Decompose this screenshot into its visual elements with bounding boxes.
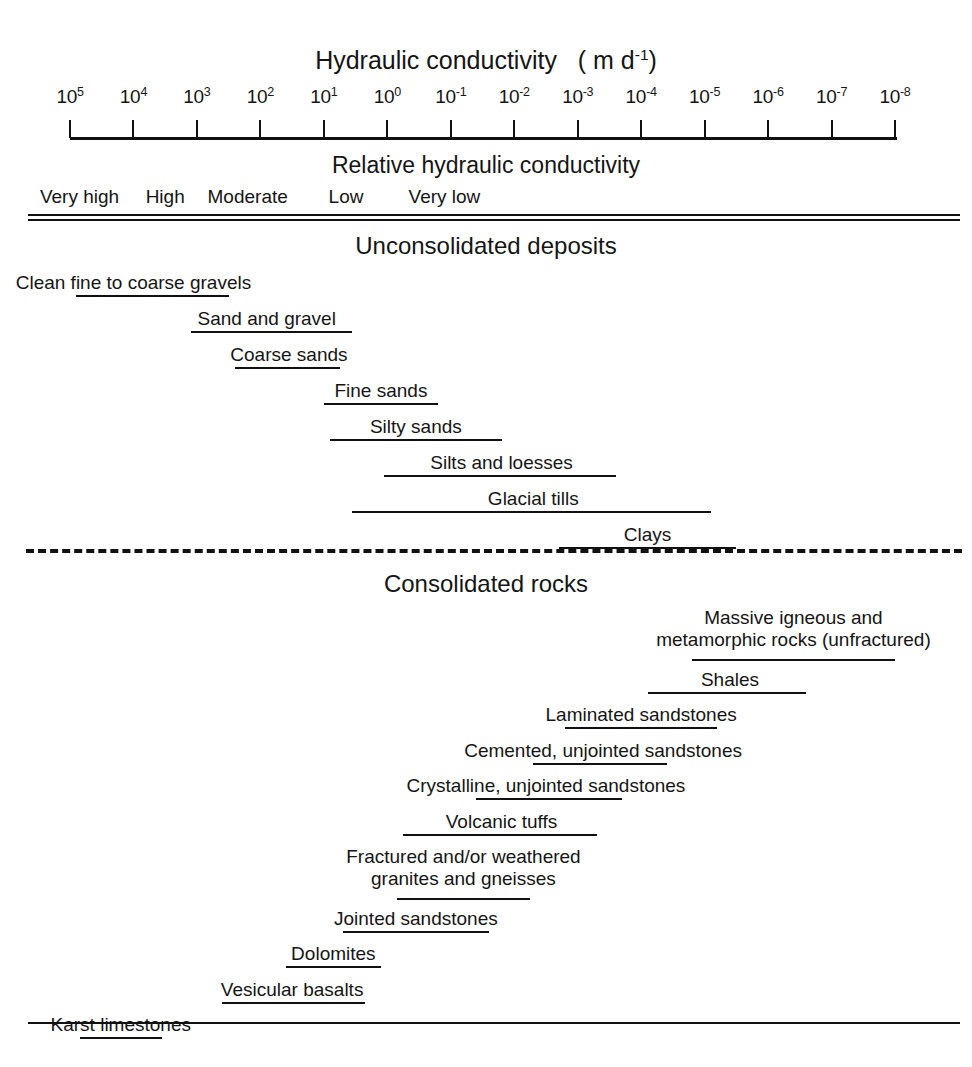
axis-tick-mark-11 — [767, 120, 769, 138]
material-label: Glacial tills — [488, 488, 579, 510]
axis-tick-label-8: 10-3 — [562, 86, 593, 108]
relative-band-label-2: Moderate — [208, 186, 288, 208]
divider-double-rule — [28, 214, 960, 221]
axis-tick-label-6: 10-1 — [435, 86, 466, 108]
material-label-line1: Coarse sands — [230, 344, 347, 365]
axis-tick-mark-13 — [894, 120, 896, 138]
material-label-line1: Glacial tills — [488, 488, 579, 509]
relative-band-label-0: Very high — [40, 186, 119, 208]
relative-band-label-1: High — [146, 186, 185, 208]
material-label-line1: Crystalline, unjointed sandstones — [407, 775, 686, 796]
material-label: Cemented, unjointed sandstones — [464, 740, 742, 762]
material-label: Clean fine to coarse gravels — [16, 272, 252, 294]
axis-title-text: Hydraulic conductivity — [315, 46, 557, 74]
material-label: Laminated sandstones — [546, 704, 737, 726]
material-label-line1: Cemented, unjointed sandstones — [464, 740, 742, 761]
range-bar — [191, 331, 353, 333]
material-label: Sand and gravel — [198, 308, 336, 330]
axis-tick-label-7: 10-2 — [499, 86, 530, 108]
material-label-line2: metamorphic rocks (unfractured) — [656, 629, 931, 651]
material-label-line1: Shales — [701, 669, 759, 690]
material-label-line1: Vesicular basalts — [221, 979, 364, 1000]
range-bar — [397, 898, 530, 900]
material-label: Fine sands — [334, 380, 427, 402]
range-bar — [343, 931, 489, 933]
range-bar — [222, 1002, 365, 1004]
axis-tick-label-5: 100 — [374, 86, 401, 108]
axis-title: Hydraulic conductivity ( m d-1) — [0, 46, 972, 75]
divider-bottom-rule — [28, 1022, 960, 1024]
axis-tick-mark-9 — [640, 120, 642, 138]
axis-tick-label-0: 105 — [56, 86, 83, 108]
material-label-line1: Karst limestones — [51, 1014, 191, 1035]
range-bar — [80, 1037, 163, 1039]
axis-tick-mark-10 — [704, 120, 706, 138]
range-bar — [235, 367, 340, 369]
range-bar — [648, 692, 807, 694]
material-label-line1: Clays — [624, 524, 672, 545]
axis-tick-label-2: 103 — [183, 86, 210, 108]
axis-tick-mark-4 — [323, 120, 325, 138]
material-label-line1: Sand and gravel — [198, 308, 336, 329]
material-label: Clays — [624, 524, 672, 546]
material-label: Fractured and/or weatheredgranites and g… — [346, 846, 580, 890]
axis-tick-label-11: 10-6 — [753, 86, 784, 108]
range-bar — [533, 763, 666, 765]
material-label: Volcanic tuffs — [446, 811, 558, 833]
axis-tick-label-12: 10-7 — [816, 86, 847, 108]
material-label-line2: granites and gneisses — [346, 868, 580, 890]
axis-baseline — [70, 137, 897, 140]
axis-tick-label-13: 10-8 — [879, 86, 910, 108]
section-heading-unconsolidated: Unconsolidated deposits — [0, 232, 972, 260]
range-bar — [692, 659, 895, 661]
material-label-line1: Volcanic tuffs — [446, 811, 558, 832]
axis-tick-label-1: 104 — [120, 86, 147, 108]
material-label: Vesicular basalts — [221, 979, 364, 1001]
axis-tick-mark-7 — [513, 120, 515, 138]
axis-units-exponent: -1 — [635, 46, 649, 63]
range-bar — [330, 439, 501, 441]
axis-title-units: ( m d-1) — [578, 46, 657, 74]
material-label: Jointed sandstones — [334, 908, 498, 930]
range-bar — [565, 727, 717, 729]
axis-tick-mark-8 — [577, 120, 579, 138]
material-label-line1: Silts and loesses — [430, 452, 573, 473]
axis-tick-label-9: 10-4 — [626, 86, 657, 108]
material-label-line1: Laminated sandstones — [546, 704, 737, 725]
material-label: Silts and loesses — [430, 452, 573, 474]
axis-tick-label-3: 102 — [247, 86, 274, 108]
axis-tick-mark-5 — [386, 120, 388, 138]
axis-tick-mark-6 — [450, 120, 452, 138]
range-bar — [476, 798, 622, 800]
axis-tick-mark-1 — [132, 120, 134, 138]
relative-band-label-4: Very low — [409, 186, 481, 208]
relative-band-label-3: Low — [329, 186, 364, 208]
range-bar — [384, 475, 616, 477]
material-label: Karst limestones — [51, 1014, 191, 1036]
hydraulic-conductivity-figure: Hydraulic conductivity ( m d-1) 10510410… — [0, 0, 972, 1067]
material-label: Coarse sands — [230, 344, 347, 366]
range-bar — [403, 834, 597, 836]
section-heading-consolidated: Consolidated rocks — [0, 570, 972, 598]
material-label-line1: Jointed sandstones — [334, 908, 498, 929]
axis-tick-mark-3 — [259, 120, 261, 138]
material-label: Shales — [701, 669, 759, 691]
axis-tick-mark-12 — [831, 120, 833, 138]
material-label-line1: Dolomites — [291, 943, 375, 964]
axis-tick-label-4: 101 — [310, 86, 337, 108]
relative-conductivity-title: Relative hydraulic conductivity — [0, 152, 972, 179]
range-bar — [352, 511, 711, 513]
material-label: Massive igneous andmetamorphic rocks (un… — [656, 607, 931, 651]
divider-dashed-rule — [26, 549, 962, 553]
axis-tick-mark-0 — [69, 120, 71, 138]
range-bar — [286, 966, 381, 968]
range-bar — [76, 295, 228, 297]
material-label-line1: Fractured and/or weathered — [346, 846, 580, 867]
material-label: Crystalline, unjointed sandstones — [407, 775, 686, 797]
material-label: Silty sands — [370, 416, 462, 438]
material-label: Dolomites — [291, 943, 375, 965]
material-label-line1: Silty sands — [370, 416, 462, 437]
material-label-line1: Fine sands — [334, 380, 427, 401]
range-bar — [324, 403, 438, 405]
material-label-line1: Massive igneous and — [704, 607, 883, 628]
